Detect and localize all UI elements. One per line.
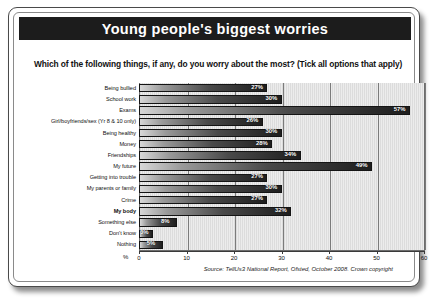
bar-value-label: 57% bbox=[394, 107, 406, 113]
bar-value-label: 34% bbox=[285, 152, 297, 158]
bar-track: 8% bbox=[139, 217, 424, 228]
bar-value-label: 27% bbox=[251, 85, 263, 91]
bar-row: Being bullied27% bbox=[27, 83, 425, 94]
bar bbox=[139, 140, 272, 148]
chart-subtitle: Which of the following things, if any, d… bbox=[34, 59, 402, 69]
x-tick-30 bbox=[282, 251, 283, 254]
category-label: Money bbox=[0, 142, 136, 148]
category-label: School work bbox=[0, 97, 136, 103]
x-tick-60 bbox=[424, 251, 425, 254]
x-tick-40 bbox=[329, 251, 330, 254]
category-label: Friendships bbox=[0, 153, 136, 159]
bar bbox=[139, 162, 372, 170]
bar-row: Don't know3% bbox=[27, 228, 425, 239]
bar-row: Money28% bbox=[27, 139, 425, 150]
bar-value-label: 26% bbox=[247, 118, 259, 124]
gridline-60 bbox=[425, 83, 426, 250]
bar bbox=[139, 218, 177, 226]
x-tick-10 bbox=[187, 251, 188, 254]
bar-value-label: 49% bbox=[356, 163, 368, 169]
x-tick-label-50: 50 bbox=[373, 255, 380, 261]
source-note: Source: TellUs3 National Report, Ofsted,… bbox=[204, 266, 393, 272]
x-tick-label-10: 10 bbox=[183, 255, 190, 261]
bar-track: 5% bbox=[139, 240, 424, 251]
bar-value-label: 3% bbox=[140, 230, 149, 236]
bar-track: 30% bbox=[139, 94, 424, 105]
bar-value-label: 28% bbox=[256, 141, 268, 147]
bar-row: Friendships34% bbox=[27, 150, 425, 161]
bar bbox=[139, 84, 267, 92]
bar-value-label: 27% bbox=[251, 196, 263, 202]
bar-value-label: 27% bbox=[251, 174, 263, 180]
bar-track: 57% bbox=[139, 105, 424, 116]
category-label: My future bbox=[0, 164, 136, 170]
x-axis-unit-label: % bbox=[123, 254, 128, 260]
x-tick-50 bbox=[377, 251, 378, 254]
bar bbox=[139, 129, 282, 137]
bar-track: 27% bbox=[139, 195, 424, 206]
x-axis: 0102030405060 bbox=[139, 251, 425, 265]
x-tick-label-60: 60 bbox=[421, 255, 428, 261]
bar-value-label: 30% bbox=[266, 129, 278, 135]
bar bbox=[139, 95, 282, 103]
bar-row: Girl/boyfriends/sex (Yr 8 & 10 only)26% bbox=[27, 117, 425, 128]
bar-row: Something else8% bbox=[27, 217, 425, 228]
x-tick-label-30: 30 bbox=[278, 255, 285, 261]
category-label: Crime bbox=[0, 198, 136, 204]
bar-row: Getting into trouble27% bbox=[27, 173, 425, 184]
chart-title-banner: Young people's biggest worries bbox=[19, 17, 411, 40]
bar-row: School work30% bbox=[27, 94, 425, 105]
bar-row: Crime27% bbox=[27, 195, 425, 206]
bar-track: 27% bbox=[139, 173, 424, 184]
bar bbox=[139, 174, 267, 182]
bar-track: 30% bbox=[139, 128, 424, 139]
x-tick-0 bbox=[139, 251, 140, 254]
bar-track: 28% bbox=[139, 139, 424, 150]
category-label: Something else bbox=[0, 220, 136, 226]
category-label: Being healthy bbox=[0, 131, 136, 137]
bar bbox=[139, 151, 301, 159]
bar-track: 49% bbox=[139, 161, 424, 172]
category-label: Don't know bbox=[0, 231, 136, 237]
bar-row: My future49% bbox=[27, 161, 425, 172]
bar-row: Nothing5% bbox=[27, 240, 425, 251]
category-label: Exams bbox=[0, 108, 136, 114]
bar-track: 34% bbox=[139, 150, 424, 161]
category-label: Girl/boyfriends/sex (Yr 8 & 10 only) bbox=[0, 119, 136, 125]
bar-value-label: 32% bbox=[275, 208, 287, 214]
bar bbox=[139, 185, 282, 193]
bar-track: 30% bbox=[139, 184, 424, 195]
bar-value-label: 5% bbox=[147, 241, 156, 247]
screenshot-root: Young people's biggest worries Which of … bbox=[0, 0, 436, 302]
bar-track: 26% bbox=[139, 117, 424, 128]
chart-card: Young people's biggest worries Which of … bbox=[8, 7, 420, 287]
bar bbox=[139, 118, 263, 126]
x-tick-label-20: 20 bbox=[231, 255, 238, 261]
x-tick-label-40: 40 bbox=[326, 255, 333, 261]
x-tick-label-0: 0 bbox=[137, 255, 140, 261]
category-label: Getting into trouble bbox=[0, 175, 136, 181]
page-title: Young people's biggest worries bbox=[102, 21, 329, 37]
bar-track: 27% bbox=[139, 83, 424, 94]
bar-track: 32% bbox=[139, 206, 424, 217]
bar-row: My parents or family30% bbox=[27, 184, 425, 195]
category-label: My body bbox=[0, 209, 136, 215]
bar bbox=[139, 207, 291, 215]
category-label: My parents or family bbox=[0, 186, 136, 192]
chart-plot-wrapper: Being bullied27%School work30%Exams57%Gi… bbox=[27, 78, 427, 253]
category-label: Nothing bbox=[0, 242, 136, 248]
bar bbox=[139, 196, 267, 204]
bar-rows: Being bullied27%School work30%Exams57%Gi… bbox=[27, 83, 425, 251]
category-label: Being bullied bbox=[0, 86, 136, 92]
x-tick-20 bbox=[234, 251, 235, 254]
bar bbox=[139, 106, 410, 114]
bar-row: Exams57% bbox=[27, 105, 425, 116]
bar-value-label: 30% bbox=[266, 96, 278, 102]
bar-row: My body32% bbox=[27, 206, 425, 217]
bar-value-label: 30% bbox=[266, 185, 278, 191]
bar-row: Being healthy30% bbox=[27, 128, 425, 139]
bar-value-label: 8% bbox=[161, 219, 170, 225]
bar-track: 3% bbox=[139, 228, 424, 239]
